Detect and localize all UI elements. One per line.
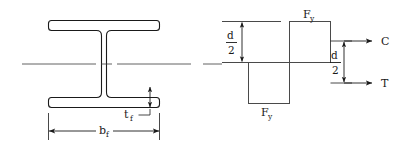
fy-top-label: F y: [303, 8, 315, 23]
engineering-diagram: b f t f F: [0, 0, 404, 147]
compression-stress-rectangle: [290, 22, 331, 63]
tf-leader-line: [139, 109, 151, 115]
bf-symbol: b: [99, 124, 106, 137]
d2-left-numerator: d: [227, 29, 234, 41]
bf-label: b f: [99, 124, 110, 139]
tf-label: t f: [124, 108, 134, 123]
stress-block-diagram: F y F y d 2 d 2: [203, 8, 389, 121]
d2-right-fraction: d 2: [330, 49, 341, 76]
fy-bottom-subscript: y: [267, 112, 273, 121]
i-beam-section: b f t f: [22, 21, 191, 141]
bf-subscript: f: [106, 130, 110, 139]
tf-subscript: f: [130, 114, 134, 123]
d2-left-fraction: d 2: [226, 29, 237, 56]
tension-stress-rectangle: [249, 63, 290, 104]
d2-right-numerator: d: [331, 49, 338, 61]
compression-force-label: C: [381, 35, 389, 48]
fy-top-subscript: y: [309, 14, 315, 23]
tf-symbol: t: [124, 108, 129, 121]
d2-left-denominator: 2: [228, 44, 235, 56]
fy-bottom-label: F y: [261, 106, 273, 121]
tension-force-label: T: [381, 77, 389, 90]
figure-canvas: b f t f F: [0, 0, 404, 147]
d2-right-denominator: 2: [332, 64, 339, 76]
